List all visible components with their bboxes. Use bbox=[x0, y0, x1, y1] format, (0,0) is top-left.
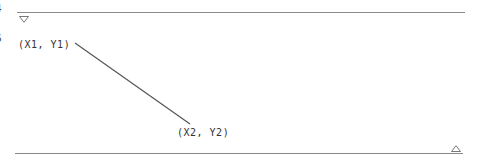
point2-label: (X2, Y2) bbox=[177, 127, 229, 138]
connector-line bbox=[0, 0, 478, 163]
bottom-rule bbox=[15, 153, 463, 154]
up-triangle-icon[interactable] bbox=[451, 145, 461, 152]
